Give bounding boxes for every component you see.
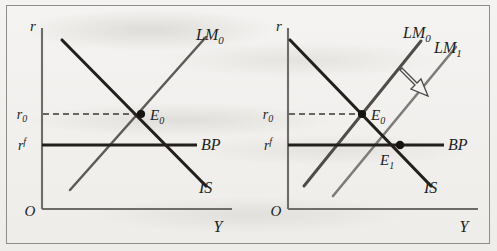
right-panel: r Y O r0 rf LM0 LM1 IS B <box>263 18 478 235</box>
left-tick-label-r0: r0 <box>17 107 27 124</box>
left-equilibrium-point-e0 <box>137 110 145 118</box>
left-tick-r0-subscript: 0 <box>22 113 27 124</box>
right-e0-label-base: E <box>370 107 380 123</box>
right-tick-label-rf: rf <box>264 136 273 153</box>
left-point-label-e0: E0 <box>149 107 164 126</box>
left-tick-rf-superscript: f <box>23 136 27 147</box>
right-point-label-e1: E1 <box>379 152 394 171</box>
right-e1-label-subscript: 1 <box>389 160 394 171</box>
right-y-axis-label: r <box>276 18 282 34</box>
left-origin-label: O <box>25 203 36 219</box>
right-e1-label-base: E <box>379 152 389 168</box>
left-panel: r Y O r0 rf LM0 IS BP E0 <box>17 18 232 235</box>
right-curve-label-bp: BP <box>448 136 468 153</box>
right-origin-label: O <box>271 203 282 219</box>
left-tick-label-rf: rf <box>18 136 27 153</box>
right-tick-r0-subscript: 0 <box>268 113 273 124</box>
lm-shift-arrow-icon <box>400 68 428 96</box>
right-equilibrium-point-e0 <box>358 110 366 118</box>
right-tick-rf-superscript: f <box>269 136 273 147</box>
left-e0-label-base: E <box>149 107 159 123</box>
figure-screenshot: r Y O r0 rf LM0 IS BP E0 <box>0 0 497 251</box>
right-tick-label-r0: r0 <box>263 107 273 124</box>
is-lm-bp-diagram: r Y O r0 rf LM0 IS BP E0 <box>0 0 497 251</box>
right-lm0-label-subscript: 0 <box>425 32 431 44</box>
right-lm0-label-base: LM <box>402 24 427 41</box>
right-x-axis-label: Y <box>460 218 471 235</box>
left-e0-label-subscript: 0 <box>159 115 164 126</box>
left-curve-label-bp: BP <box>201 136 221 153</box>
right-equilibrium-point-e1 <box>396 141 405 150</box>
right-e0-label-subscript: 0 <box>380 115 385 126</box>
right-lm1-curve <box>333 47 456 196</box>
right-lm1-label-base: LM <box>433 39 458 56</box>
left-lm0-label-subscript: 0 <box>218 34 224 46</box>
left-curve-label-is: IS <box>198 179 212 196</box>
left-lm0-label-base: LM <box>195 26 220 43</box>
left-x-axis-label: Y <box>214 218 225 235</box>
right-lm1-label-subscript: 1 <box>456 47 462 59</box>
left-y-axis-label: r <box>30 18 36 34</box>
right-curve-label-is: IS <box>423 179 437 196</box>
right-curve-label-lm0: LM0 <box>402 24 431 44</box>
